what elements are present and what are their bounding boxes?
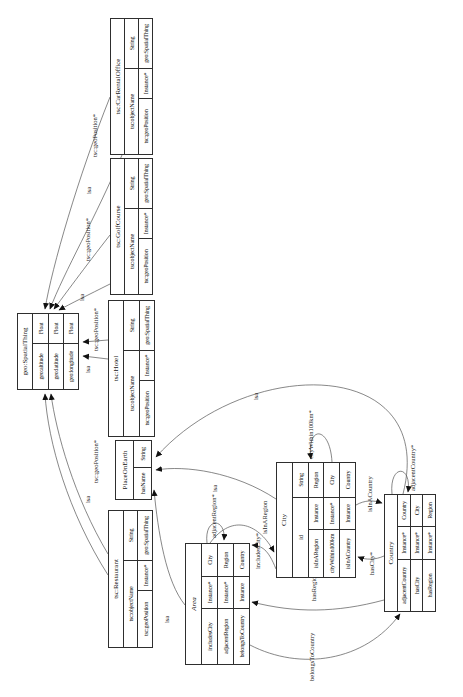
slot-row: hasCityInstance*City (411, 495, 424, 611)
type-cell: Region (423, 495, 435, 526)
edge-label-cityWithin100km: cityWithin100km* (307, 410, 314, 459)
class-table-tsc-hotel: tsc:Hoteltsc:objectNameStringtsc:geoPosi… (108, 300, 155, 437)
edge-label-adjacentCountry: adjacentCountry* (409, 445, 416, 491)
edge-label-includesCity: includesCity* (254, 533, 261, 569)
slot-name-cell: belongsToCountry (234, 608, 249, 664)
class-header-area: Area (186, 544, 202, 664)
type-cell: String (124, 511, 138, 560)
edge-tsc-restaurant-to-geo-spatialthing (51, 394, 108, 554)
slot-row: isInACountryInstanceCountry (340, 463, 355, 577)
class-header-city: City (277, 463, 293, 577)
type-cell: String (125, 19, 138, 68)
class-table-tsc-restaurant: tsc:Restauranttsc:objectNameStringtsc:ge… (108, 510, 153, 648)
slot-row: geo:latitudeFloat (49, 314, 64, 389)
slot-name-cell: tsc:objectName (124, 350, 138, 436)
edge-label-tscgeoPosition: tsc:geoPosition* (84, 218, 91, 261)
edge-area-to-country (250, 614, 400, 659)
cardinality-cell: Instance* (139, 208, 152, 238)
edge-label-isa: isa (78, 294, 85, 301)
type-cell: Float (64, 314, 78, 343)
slot-row: belongsToCountryInstanceCountry (234, 544, 249, 664)
slot-name-cell: hasRegion (423, 559, 435, 611)
slot-name-cell: includesCity (202, 608, 217, 664)
type-cell: Region (309, 463, 324, 497)
diagram-canvas: tsc:geoPosition*isatsc:geoPosition*isais… (0, 0, 463, 697)
slot-row: isInARegionInstanceRegion (309, 463, 325, 577)
slot-name-cell: tsc:objectName (125, 68, 138, 154)
cardinality-cell: Instance* (140, 350, 154, 380)
type-cell: City (202, 544, 217, 576)
slot-row: cityWithin100kmInstance*City (324, 463, 340, 577)
class-table-tsc-carrentaloffice: tsc:CarRentalOfficetsc:objectNameStringt… (110, 18, 153, 155)
slot-name-cell: hasCity (411, 559, 423, 611)
class-header-geo-spatialthing: geo:SpatialThing (18, 314, 33, 389)
cardinality-cell: Instance* (139, 68, 152, 98)
slot-row: tsc:objectNameString (124, 301, 139, 436)
type-cell: Country (340, 463, 355, 497)
edge-label-isa: isa (85, 187, 92, 194)
type-cell: geo:SpatialThing (139, 19, 152, 68)
cardinality-cell: Instance (234, 576, 249, 608)
class-header-tsc-carrentaloffice: tsc:CarRentalOffice (111, 19, 125, 154)
cardinality-cell: Instance* (398, 526, 410, 559)
slot-name-cell: tsc:geoPosition (138, 590, 152, 647)
type-cell: Country (398, 495, 410, 526)
slot-row: tsc:geoPositionInstance*geo:SpatialThing (138, 511, 152, 647)
cardinality-cell: Instance* (324, 497, 339, 529)
slot-name-cell: geo:altitude (33, 343, 47, 389)
edge-area-to-placeonearth (154, 490, 185, 605)
type-cell: Float (33, 314, 47, 343)
slot-row: idString (293, 463, 309, 577)
cardinality-cell: Instance* (202, 576, 217, 608)
edge-country-to-country (392, 471, 409, 494)
edge-country-to-area (252, 600, 384, 610)
slot-row: tsc:geoPositionInstance*geo:SpatialThing (140, 301, 154, 436)
class-table-geo-spatialthing: geo:SpatialThinggeo:altitudeFloatgeo:lat… (17, 313, 79, 390)
type-cell: Country (234, 544, 249, 576)
type-cell: geo:SpatialThing (140, 301, 154, 350)
slot-name-cell: hasName (134, 467, 151, 499)
class-header-placeonearth: PlaceOnEarth (116, 441, 134, 499)
edge-label-belongsToCountry: belongsToCountry (308, 632, 315, 681)
type-cell: City (411, 495, 423, 526)
class-table-city: CityidStringisInARegionInstanceRegioncit… (276, 462, 356, 578)
edge-tsc-restaurant-to-geo-spatialthing (45, 394, 108, 575)
edge-label-isa: isa (252, 393, 259, 400)
type-cell: String (134, 441, 151, 467)
type-cell: String (124, 301, 138, 350)
edge-label-isa: isa (163, 616, 170, 623)
slot-row: tsc:geoPositionInstance*geo:SpatialThing (139, 19, 152, 154)
class-header-tsc-restaurant: tsc:Restaurant (109, 511, 124, 647)
class-header-tsc-golfcourse: tsc:GolfCourse (111, 159, 125, 294)
slot-row: tsc:objectNameString (124, 511, 139, 647)
class-table-area: AreaincludesCityInstance*CityadjacentReg… (185, 543, 250, 665)
edge-label-hasCity: hasCity* (368, 552, 375, 575)
slot-row: adjacentRegionInstance*Region (218, 544, 234, 664)
class-header-country: Country (385, 495, 398, 611)
type-cell: String (293, 463, 308, 497)
edge-label-isa: isa (211, 485, 218, 492)
slot-row: geo:altitudeFloat (33, 314, 48, 389)
edge-label-tscgeoPosition: tsc:geoPosition* (91, 114, 98, 157)
slot-name-cell: tsc:geoPosition (139, 98, 152, 154)
edge-label-adjacentRegion: adjacentRegion* (210, 494, 217, 538)
slot-name-cell: adjacentCountry (398, 559, 410, 611)
cardinality-cell: Instance* (423, 526, 435, 559)
slot-name-cell: geo:longitude (64, 343, 78, 389)
class-table-tsc-golfcourse: tsc:GolfCoursetsc:objectNameStringtsc:ge… (110, 158, 153, 295)
type-cell: Float (49, 314, 63, 343)
edge-label-isInARegion: isInARegion (261, 500, 268, 534)
cardinality-cell: Instance (340, 497, 355, 529)
type-cell: geo:SpatialThing (139, 159, 152, 208)
class-table-placeonearth: PlaceOnEarthhasNameString (115, 440, 152, 500)
slot-row: hasNameString (134, 441, 151, 499)
slot-row: hasRegionInstance*Region (423, 495, 435, 611)
type-cell: geo:SpatialThing (138, 511, 152, 560)
cardinality-cell: Instance* (411, 526, 423, 559)
type-cell: String (125, 159, 138, 208)
cardinality-cell: Instance (309, 497, 324, 529)
type-cell: City (324, 463, 339, 497)
class-header-tsc-hotel: tsc:Hotel (109, 301, 124, 436)
slot-name-cell: id (293, 497, 308, 577)
slot-name-cell: cityWithin100km (324, 529, 339, 577)
